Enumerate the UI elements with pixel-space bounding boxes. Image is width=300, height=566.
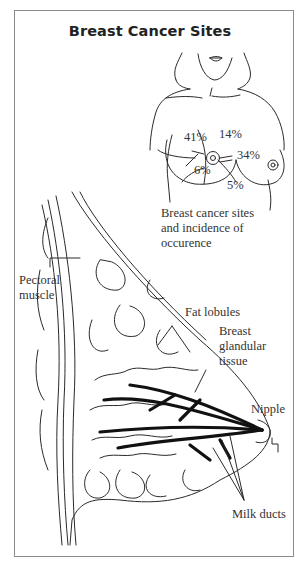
label-glandular-tissue: Breast glandular tissue <box>219 324 266 369</box>
pct-upper-outer: 41% <box>184 130 207 145</box>
torso-figure-icon <box>150 53 284 210</box>
pct-lower-inner: 5% <box>227 178 244 193</box>
torso-caption: Breast cancer sites and incidence of occ… <box>161 206 254 251</box>
label-nipple: Nipple <box>251 402 285 417</box>
pct-lower-outer: 6% <box>194 163 211 178</box>
label-milk-ducts: Milk ducts <box>232 507 286 522</box>
pct-upper-inner: 14% <box>219 127 242 142</box>
label-fat-lobules: Fat lobules <box>185 305 240 320</box>
label-pectoral-muscle: Pectoral muscle <box>19 273 60 303</box>
pct-central: 34% <box>237 148 260 163</box>
